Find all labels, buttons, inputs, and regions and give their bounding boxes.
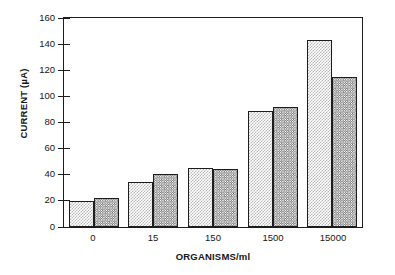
- bar-dark: [332, 77, 357, 227]
- y-tick-label: 160: [39, 12, 55, 23]
- bar-light: [69, 201, 94, 227]
- y-tick-label: 140: [39, 38, 55, 49]
- bar-dark: [273, 107, 298, 227]
- bar-dark: [94, 198, 119, 227]
- bar-group: [307, 40, 357, 227]
- bar-dark: [153, 174, 178, 227]
- bar-light: [128, 182, 153, 227]
- y-tick-label: 120: [39, 64, 55, 75]
- bar-light: [188, 168, 213, 227]
- y-axis-label: CURRENT (µA): [18, 29, 29, 179]
- bar-chart-figure: CURRENT (µA) 020406080100120140160 01515…: [0, 0, 395, 275]
- plot-area: 020406080100120140160: [63, 17, 363, 228]
- x-tick-label: 0: [67, 232, 119, 243]
- y-tick-label: 0: [50, 221, 55, 232]
- bar-groups: [64, 18, 362, 227]
- y-tick-label: 100: [39, 90, 55, 101]
- y-tick-label: 80: [44, 116, 55, 127]
- bar-group: [248, 107, 298, 227]
- bar-group: [69, 198, 119, 227]
- bar-light: [307, 40, 332, 227]
- bar-group: [128, 174, 178, 227]
- x-axis-tick-labels: 015150150015000: [63, 232, 363, 243]
- x-tick-label: 150: [187, 232, 239, 243]
- bar-group: [188, 168, 238, 227]
- x-tick-label: 1500: [247, 232, 299, 243]
- y-tick-label: 40: [44, 168, 55, 179]
- y-tick-label: 20: [44, 194, 55, 205]
- bar-dark: [213, 169, 238, 227]
- bar-light: [248, 111, 273, 227]
- x-axis-label: ORGANISMS/ml: [63, 251, 363, 262]
- y-tick-label: 60: [44, 142, 55, 153]
- x-tick-label: 15: [127, 232, 179, 243]
- x-tick-label: 15000: [307, 232, 359, 243]
